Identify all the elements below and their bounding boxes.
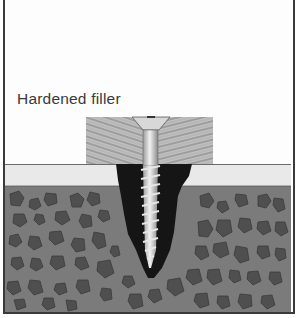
filler-label: Hardened filler [17,90,121,108]
screw-in-filler-illustration [0,0,300,318]
screw-shank [143,130,158,166]
